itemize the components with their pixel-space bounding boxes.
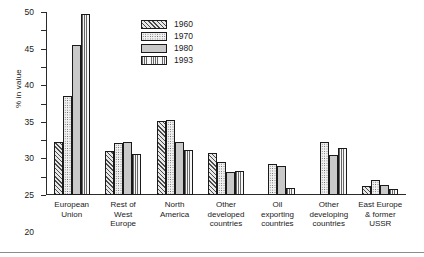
x-axis-label: EuropeanUnion [46,198,97,256]
y-tick: 0 [41,195,46,196]
bar [338,148,347,195]
bar [175,142,184,195]
legend-label: 1960 [174,20,193,29]
bar [320,142,329,195]
bar [105,151,114,195]
legend-item: 1970 [141,32,193,41]
bar [286,188,295,195]
x-axis-label-line: Union [46,210,97,220]
legend-swatch [141,44,167,53]
bar [123,142,132,195]
x-axis-label: Rest ofWestEurope [97,198,148,256]
bar [132,154,141,195]
y-tick-label: 40 [25,81,34,90]
bar-group [355,12,406,195]
legend-item: 1960 [141,20,193,29]
y-tick-label: 50 [25,8,34,17]
bar-group [303,12,354,195]
bar-group [46,12,97,195]
bar [72,45,81,195]
legend-label: 1993 [174,56,193,65]
legend-item: 1980 [141,44,193,53]
bar [235,171,244,195]
bar [114,143,123,195]
x-axis-label: NorthAmerica [149,198,200,256]
plot-area: 05101520253035404550 [46,12,406,195]
x-axis-label-line: countries [200,219,251,229]
legend-label: 1970 [174,32,193,41]
bar [226,172,235,195]
x-axis-label-line: North [149,200,200,210]
legend-swatch [141,56,167,65]
legend-label: 1980 [174,44,193,53]
x-axis-labels: EuropeanUnionRest ofWestEuropeNorthAmeri… [46,198,406,256]
x-axis-label-line: & former [355,210,406,220]
x-axis-label-line: exporting [252,210,303,220]
x-axis-label: Oilexportingcountries [252,198,303,256]
y-tick-label: 25 [25,191,34,200]
bar [217,162,226,195]
x-axis-label-line: USSR [355,219,406,229]
x-axis-label-line: countries [252,219,303,229]
bar [380,185,389,195]
bar [184,150,193,195]
x-axis-label-line: Rest of [97,200,148,210]
bottom-divider [0,252,424,253]
bar [329,155,338,195]
bar [268,164,277,195]
bar-groups [46,12,406,195]
bar-group [252,12,303,195]
legend-swatch [141,32,167,41]
x-axis-label-line: Other [303,200,354,210]
legend-swatch [141,20,167,29]
legend-item: 1993 [141,56,193,65]
bar [63,96,72,195]
bar [208,153,217,195]
bar [54,142,63,195]
chart-legend: 1960197019801993 [141,20,193,65]
x-axis-label-line: developed [200,210,251,220]
y-tick-label: 20 [25,227,34,236]
x-axis-label-line: Other [200,200,251,210]
bar [371,180,380,195]
bar-chart: % in value 05101520253035404550 European… [0,0,424,257]
bar [389,189,398,195]
x-axis-label-line: Europe [97,219,148,229]
bar [277,166,286,195]
y-tick-label: 30 [25,154,34,163]
x-axis-label: East Europe& formerUSSR [355,198,406,256]
y-tick-label: 45 [25,44,34,53]
x-axis-label: Otherdevelopingcountries [303,198,354,256]
x-axis-label-line: East Europe [355,200,406,210]
y-axis-label: % in value [14,49,23,129]
x-axis-label-line: Oil [252,200,303,210]
x-axis-label-line: West [97,210,148,220]
bar [362,186,371,195]
x-axis-label-line: countries [303,219,354,229]
bar [81,14,90,195]
x-axis-label-line: European [46,200,97,210]
x-axis-label-line: developing [303,210,354,220]
bar-group [200,12,251,195]
y-tick-label: 35 [25,118,34,127]
x-axis-label-line: America [149,210,200,220]
bar [166,120,175,195]
x-axis-label: Otherdevelopedcountries [200,198,251,256]
bar [157,121,166,195]
